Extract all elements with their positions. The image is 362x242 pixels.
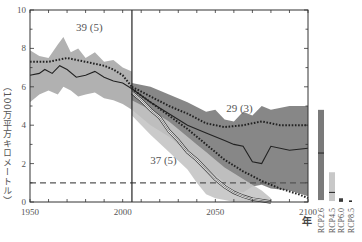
y-tick-label: 0 bbox=[22, 197, 27, 207]
legend-label: RCP6.0 bbox=[337, 208, 346, 233]
legend-item-rcp85: RCP8.5 bbox=[347, 200, 356, 233]
legend-item-rcp60: RCP6.0 bbox=[337, 198, 346, 233]
annotation-label: 37 (5) bbox=[150, 154, 177, 167]
legend: RCP2.6RCP4.5RCP6.0RCP8.5 bbox=[317, 110, 356, 233]
y-axis-label: （100万平方キロメートル） bbox=[2, 82, 14, 205]
uncertainty-bands bbox=[30, 37, 308, 202]
x-tick-label: 2000 bbox=[114, 207, 133, 217]
legend-item-rcp26: RCP2.6 bbox=[317, 110, 326, 233]
sea-ice-extent-chart: 19502000205021000246810 39 (5)29 (3)37 (… bbox=[0, 0, 362, 242]
annotation-label: 29 (3) bbox=[226, 102, 253, 115]
legend-label: RCP8.5 bbox=[347, 208, 356, 233]
y-tick-label: 10 bbox=[17, 5, 27, 15]
annotation-label: 39 (5) bbox=[76, 21, 103, 34]
y-tick-label: 8 bbox=[22, 43, 27, 53]
legend-item-rcp45: RCP4.5 bbox=[328, 172, 337, 233]
legend-label: RCP4.5 bbox=[328, 208, 337, 233]
x-tick-label: 2050 bbox=[206, 207, 225, 217]
y-tick-label: 2 bbox=[22, 159, 27, 169]
y-tick-label: 4 bbox=[22, 120, 27, 130]
x-tick-label: 1950 bbox=[21, 207, 40, 217]
x-axis-label: 年 bbox=[302, 215, 312, 227]
legend-bar bbox=[318, 110, 324, 200]
band-historical-range bbox=[30, 37, 132, 110]
legend-bar bbox=[329, 172, 335, 201]
y-tick-label: 6 bbox=[22, 82, 27, 92]
legend-label: RCP2.6 bbox=[317, 208, 326, 233]
